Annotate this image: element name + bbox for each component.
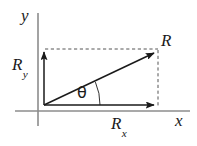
- resultant-vector-label: R: [161, 32, 171, 49]
- x-axis-label: x: [175, 112, 183, 129]
- x-component-label: Rx: [111, 115, 126, 136]
- y-component-label-subscript: y: [23, 68, 28, 80]
- angle-theta-label: θ: [77, 85, 87, 101]
- x-component-label-base: R: [111, 114, 121, 133]
- resultant-arrow: [44, 53, 154, 105]
- vector-components-figure: y x R Ry Rx θ: [0, 0, 197, 146]
- angle-arc: [95, 82, 100, 105]
- y-axis-label: y: [21, 7, 29, 24]
- y-component-label-base: R: [12, 55, 22, 74]
- y-component-label: Ry: [12, 56, 27, 77]
- vector-diagram-canvas: [0, 0, 197, 146]
- x-component-label-subscript: x: [122, 127, 127, 139]
